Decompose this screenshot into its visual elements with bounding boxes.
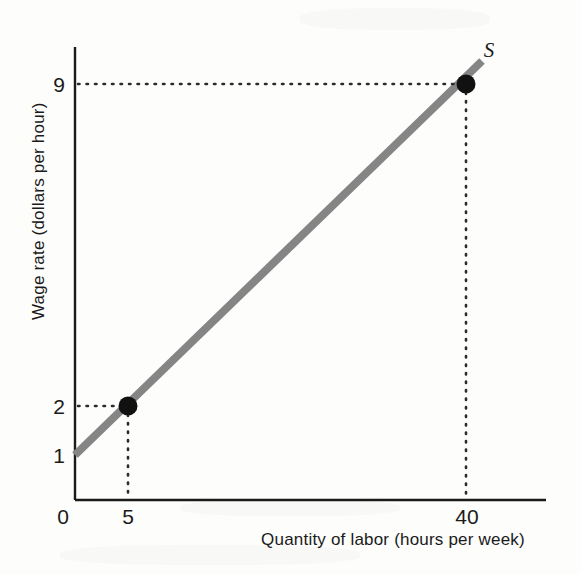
x-tick-label-40: 40 — [455, 505, 478, 528]
x-axis-title: Quantity of labor (hours per week) — [261, 530, 525, 549]
supply-curve-label: S — [484, 38, 495, 62]
chart-figure: Wage rate (dollars per hour) Quantity of… — [0, 0, 581, 574]
data-point-marker — [457, 75, 476, 94]
y-tick-label-1: 1 — [53, 444, 65, 467]
x-tick-label-5: 5 — [122, 505, 134, 528]
supply-curve-chart: Wage rate (dollars per hour) Quantity of… — [0, 0, 581, 574]
data-point-marker — [119, 397, 138, 416]
y-axis-title: Wage rate (dollars per hour) — [29, 102, 48, 320]
supply-curve-line — [75, 61, 482, 455]
x-tick-label-0: 0 — [57, 505, 69, 528]
y-tick-label-9: 9 — [53, 73, 65, 96]
y-tick-label-2: 2 — [53, 395, 65, 418]
